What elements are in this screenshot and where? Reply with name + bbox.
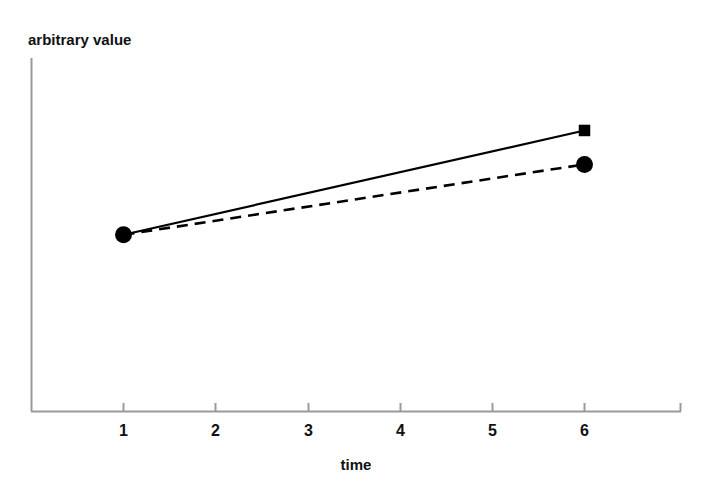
chart-page: arbitrary value 1 2 3 4 5 6 time <box>0 0 703 486</box>
data-point-marker-origin-circle <box>115 226 132 243</box>
x-axis-label: time <box>341 456 372 473</box>
x-tick-label-5: 5 <box>488 422 497 439</box>
x-tick-label-6: 6 <box>580 422 589 439</box>
data-point-marker-solid-square <box>579 125 591 137</box>
x-axis-ticks <box>124 403 681 412</box>
x-tick-label-3: 3 <box>304 422 313 439</box>
series-line-dashed <box>124 164 585 234</box>
plot-area <box>115 125 593 244</box>
line-chart: arbitrary value 1 2 3 4 5 6 time <box>0 0 703 486</box>
x-axis-tick-labels: 1 2 3 4 5 6 <box>119 422 589 439</box>
x-tick-label-4: 4 <box>396 422 405 439</box>
x-tick-label-1: 1 <box>119 422 128 439</box>
y-axis-label: arbitrary value <box>28 31 131 48</box>
x-tick-label-2: 2 <box>211 422 220 439</box>
series-line-solid <box>124 130 585 234</box>
data-point-marker-dashed-circle <box>576 156 593 173</box>
